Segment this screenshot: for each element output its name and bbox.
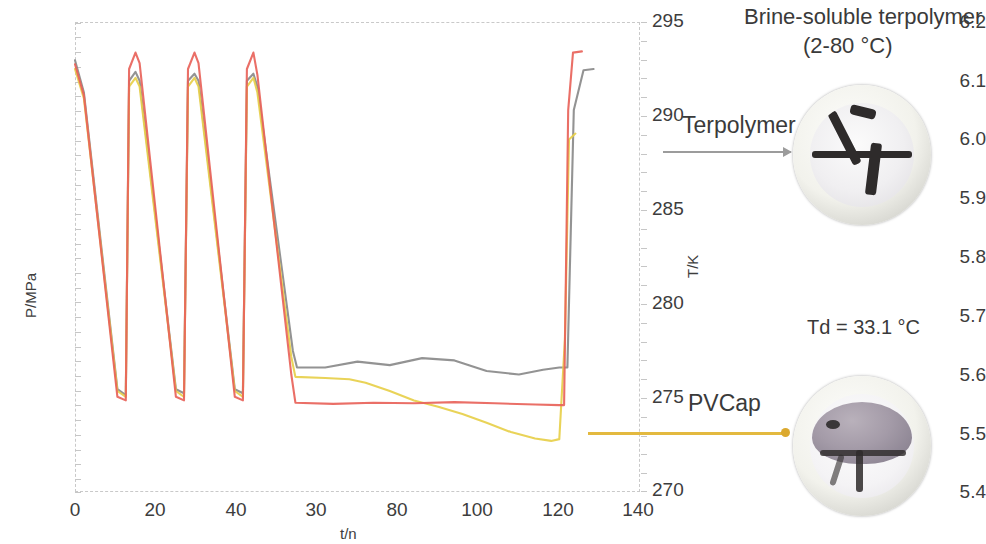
terpolymer-pointer-arrow-icon xyxy=(663,151,791,153)
x-tick-label: 140 xyxy=(618,499,658,521)
y2-tick-label: 270 xyxy=(652,479,684,501)
x-tick-label: 80 xyxy=(377,499,417,521)
chart-series-line xyxy=(75,69,575,441)
x-tick-label: 100 xyxy=(457,499,497,521)
sapphire-cell-photo-terpolymer xyxy=(793,85,931,225)
y2-tick-label: 280 xyxy=(652,292,684,314)
x-tick-label: 120 xyxy=(538,499,578,521)
x-tick-label: 40 xyxy=(216,499,256,521)
pvcap-pointer-arrow-icon xyxy=(588,432,786,435)
callout-terpolymer: Terpolymer xyxy=(682,112,796,139)
cell-window-hydrate xyxy=(810,394,914,498)
y2-tick-label: 295 xyxy=(652,10,684,32)
y2-axis-ticks xyxy=(641,22,647,492)
y2-axis-title: T/K xyxy=(684,255,701,278)
x-tick-label: 20 xyxy=(135,499,175,521)
figure-title: Brine-soluble terpolymer xyxy=(744,4,982,30)
x-tick-label: 0 xyxy=(55,499,95,521)
x-tick-label: 30 xyxy=(296,499,336,521)
sapphire-cell-photo-pvcap xyxy=(793,376,931,516)
x-axis-title: t/n xyxy=(340,525,357,542)
chart-series-line xyxy=(75,51,582,405)
figure-subtitle: (2-80 °C) xyxy=(803,33,892,59)
figure-canvas: P/MPa 6.2 6.1 6.0 5.9 5.8 5.7 5.6 5.5 5.… xyxy=(0,0,986,544)
cell-window-clear xyxy=(810,103,914,207)
chart-series-line xyxy=(75,60,594,395)
y2-tick-label: 285 xyxy=(652,198,684,220)
td-value-label: Td = 33.1 °C xyxy=(807,316,920,339)
y2-tick-label: 290 xyxy=(652,104,684,126)
callout-pvcap: PVCap xyxy=(688,390,761,417)
y2-tick-label: 275 xyxy=(652,386,684,408)
